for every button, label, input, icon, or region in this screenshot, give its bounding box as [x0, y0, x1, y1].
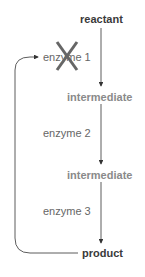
label-enzyme-2: enzyme 2 [43, 128, 91, 139]
label-enzyme-3: enzyme 3 [43, 206, 91, 217]
node-reactant: reactant [80, 14, 123, 25]
node-intermediate-2: intermediate [67, 170, 132, 181]
node-intermediate-1: intermediate [67, 92, 132, 103]
node-product: product [82, 248, 123, 259]
feedback-inhibition-arrow [15, 57, 78, 253]
label-enzyme-1: enzyme 1 [43, 52, 91, 63]
